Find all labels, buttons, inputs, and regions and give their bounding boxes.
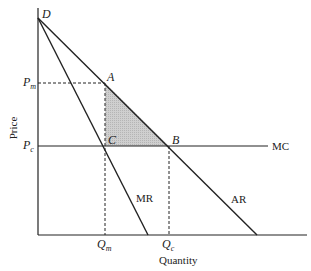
mr-curve-label: MR bbox=[136, 192, 154, 204]
point-a-label: A bbox=[106, 70, 115, 84]
qc-label: Qc bbox=[162, 237, 175, 253]
point-c-label: C bbox=[108, 133, 117, 147]
pc-label: Pc bbox=[22, 138, 34, 154]
mc-curve-label: MC bbox=[272, 140, 289, 152]
qm-label: Qm bbox=[97, 237, 112, 253]
pm-label: Pm bbox=[22, 75, 36, 91]
monopoly-diagram: D A C B Pm Pc Qm Qc MC MR AR Quantity Pr… bbox=[0, 0, 311, 271]
point-d-label: D bbox=[41, 7, 51, 21]
point-b-label: B bbox=[172, 133, 180, 147]
y-axis-title: Price bbox=[7, 117, 19, 140]
ar-curve-label: AR bbox=[231, 193, 247, 205]
x-axis-title: Quantity bbox=[159, 254, 198, 266]
